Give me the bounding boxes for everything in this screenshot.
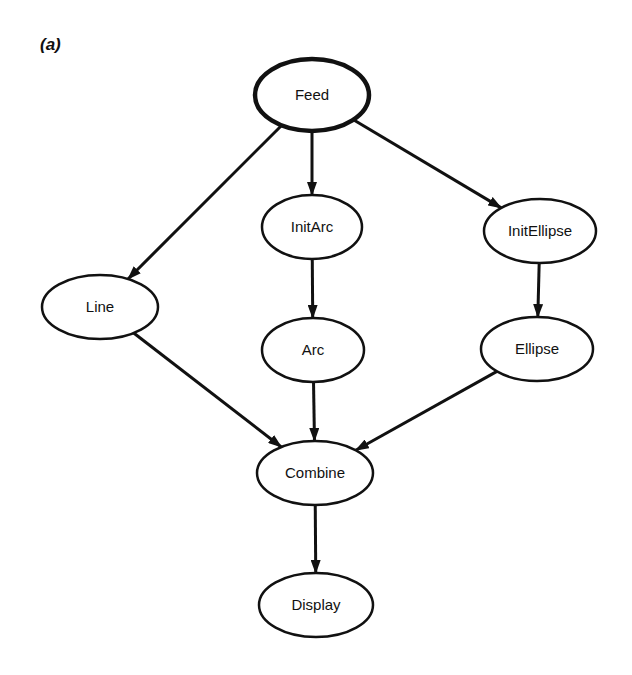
edge-feed-to-initellipse [353,120,501,208]
node-label: Display [291,596,341,613]
node-label: InitEllipse [508,222,572,239]
edge-arc-to-combine [314,382,315,441]
node-label: Line [86,298,114,315]
node-combine: Combine [257,441,373,505]
node-feed: Feed [255,59,369,131]
dataflow-diagram: (a) FeedInitArcInitEllipseLineArcEllipse… [0,0,632,675]
node-display: Display [259,573,373,637]
node-initarc: InitArc [262,195,362,259]
node-line: Line [42,275,158,339]
node-label: Ellipse [515,340,559,357]
node-label: Arc [302,341,325,358]
edge-ellipse-to-combine [356,371,497,450]
node-label: Feed [295,86,329,103]
edge-combine-to-display [315,505,316,573]
node-arc: Arc [262,318,364,382]
edge-line-to-combine [134,333,282,447]
edge-initellipse-to-ellipse [538,263,539,317]
panel-label: (a) [40,35,61,54]
nodes-layer: FeedInitArcInitEllipseLineArcEllipseComb… [42,59,596,637]
edge-feed-to-line [128,125,282,279]
node-ellipse: Ellipse [481,317,593,381]
node-label: InitArc [291,218,334,235]
node-initellipse: InitEllipse [484,199,596,263]
node-label: Combine [285,464,345,481]
